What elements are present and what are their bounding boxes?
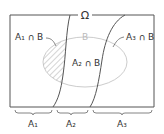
brace-a2	[57, 110, 88, 115]
partition-label-a3: A₃	[117, 119, 127, 129]
region-label-a3-cap-b: A₃ ∩ B	[126, 32, 154, 42]
brace-a1	[15, 110, 52, 115]
brace-a3	[93, 110, 152, 115]
universe-label: Ω	[81, 9, 89, 22]
region-label-a1-cap-b: A₁ ∩ B	[15, 32, 43, 42]
region-label-a2-cap-b: A₂ ∩ B	[72, 58, 100, 68]
partition-label-a1: A₁	[28, 119, 38, 129]
partition-label-a2: A₂	[66, 119, 76, 129]
set-b-label: B	[82, 32, 88, 42]
leader-line-a3	[113, 37, 124, 47]
partition-diagram: Ω B A₁ ∩ B A₂ ∩ B A₃ ∩ B A₁ A₂ A₃	[0, 0, 164, 134]
